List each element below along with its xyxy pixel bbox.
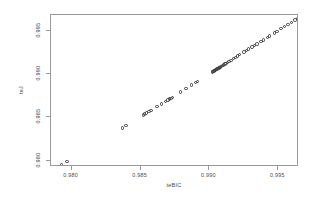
data-point	[268, 34, 271, 37]
y-axis-tick-label: 0.985	[35, 109, 41, 124]
data-point	[275, 30, 278, 33]
data-point	[149, 109, 152, 112]
data-point	[171, 96, 174, 99]
data-point	[296, 17, 297, 20]
data-point	[286, 23, 289, 26]
y-axis-tick-label: 0.990	[35, 66, 41, 81]
data-point	[262, 38, 265, 41]
data-point	[238, 53, 241, 56]
y-axis-tick-label: 0.995	[35, 22, 41, 37]
y-axis-tick	[46, 30, 50, 31]
y-axis-tick-label: 0.980	[35, 153, 41, 168]
x-axis-tick	[71, 166, 72, 170]
data-point	[190, 83, 193, 86]
data-point-layer	[51, 15, 297, 165]
data-point	[160, 102, 163, 105]
data-point	[124, 124, 127, 127]
data-point	[196, 80, 199, 83]
x-axis-tick-label: 0.985	[132, 172, 147, 178]
data-point	[184, 87, 187, 90]
x-axis-title: teBIC	[167, 182, 182, 188]
data-point	[179, 90, 182, 93]
scatter-plot-screenshot: 0.9800.9850.9900.9950.9800.9850.9900.995…	[0, 0, 313, 198]
data-point	[60, 163, 63, 165]
x-axis-tick	[140, 166, 141, 170]
x-axis-tick-label: 0.990	[201, 172, 216, 178]
y-axis-title: teJ	[18, 86, 24, 94]
x-axis-tick-label: 0.995	[270, 172, 285, 178]
plot-frame	[50, 14, 298, 166]
x-axis-tick	[277, 166, 278, 170]
data-point	[155, 105, 158, 108]
y-axis-tick	[46, 160, 50, 161]
y-axis-tick	[46, 73, 50, 74]
y-axis-tick	[46, 116, 50, 117]
data-point	[279, 27, 282, 30]
x-axis-tick-label: 0.980	[63, 172, 78, 178]
x-axis-tick	[208, 166, 209, 170]
data-point	[65, 160, 68, 163]
data-point	[255, 42, 258, 45]
